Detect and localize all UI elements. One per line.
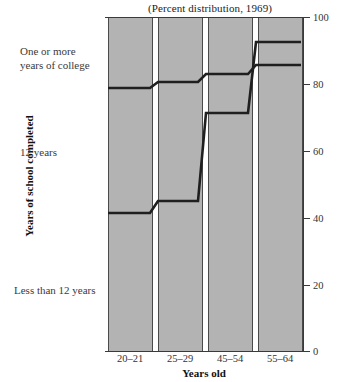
band-label-less-than-twelve: Less than 12 years [14,283,114,297]
y-tick-80: 80 [303,78,341,90]
band-label-college-line1: One or more [20,44,106,58]
x-tick-label-3: 55–64 [250,353,310,364]
tick-mark-icon [303,285,310,286]
band-label-college: One or more years of college [20,44,106,72]
tick-mark-icon [303,351,310,352]
tick-mark-icon [303,151,310,152]
category-bar [208,17,253,351]
category-bar [258,17,303,351]
axis-top-line [105,17,304,18]
y-tick-60: 60 [303,145,341,157]
band-label-college-line2: years of college [20,58,106,72]
y-tick-100: 100 [303,11,341,23]
category-bar [158,17,203,351]
y-tick-20: 20 [303,279,341,291]
category-bar [108,17,153,351]
tick-mark-icon [303,84,310,85]
chart-subtitle: (Percent distribution, 1969) [110,2,310,14]
band-label-twelve-years: 12 years [20,145,106,159]
plot-area [105,17,303,351]
axis-right-line [303,17,304,352]
axis-bottom-line [105,351,304,352]
y-axis-title: Years of school completed [23,96,35,256]
tick-mark-icon [303,17,310,18]
x-axis-title: Years old [105,367,303,379]
chart-container: (Percent distribution, 1969) 100 80 60 4… [0,0,341,382]
y-tick-40: 40 [303,212,341,224]
tick-mark-icon [303,218,310,219]
